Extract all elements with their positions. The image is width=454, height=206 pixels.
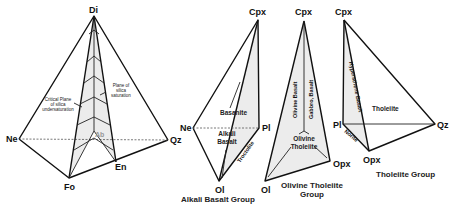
basalt-tetrahedron: Di Ne Qz Fo En Ab Critical Plane of sili… [6, 5, 182, 192]
vertex-en: En [115, 162, 127, 172]
field-alkali-basalt-2: Basalt [217, 138, 237, 145]
vertex-pl: Pl [262, 123, 271, 133]
vertex-opx: Opx [333, 159, 351, 169]
tholeiite-tetrahedron: Cpx Pl Opx Qz Hypersthene Basalt Tholeii… [333, 7, 449, 179]
critical-plane-label-3: undersaturation [42, 107, 74, 112]
basalt-classification-diagrams: Di Ne Qz Fo En Ab Critical Plane of sili… [0, 0, 454, 206]
field-olivine-tholeiite-1: Olivine [293, 135, 315, 142]
vertex-ne: Ne [6, 134, 18, 144]
ne-qz-hidden-edge [19, 139, 168, 140]
group-label: Alkali Basalt Group [181, 195, 255, 204]
vertex-qz: Qz [437, 120, 449, 130]
group-label-1: Olivine Tholeiite [281, 181, 343, 190]
vertex-pl: Pl [333, 120, 342, 130]
field-basanite: Basanite [220, 109, 247, 116]
olivine-tholeiite-tetrahedron: Cpx Ol Opx Olivine Basalt Gabbro, Basalt… [261, 7, 351, 199]
field-alkali-basalt-1: Alkali [218, 130, 236, 137]
saturation-plane-label-3: saturation [111, 93, 131, 98]
alkali-basalt-tetrahedron: Cpx Ne Pl Ol Basanite Alkali Basalt Troc… [180, 7, 271, 204]
group-label-2: Group [300, 190, 324, 199]
field-gabbro-basalt: Gabbro, Basalt [308, 80, 314, 119]
vertex-ol: Ol [261, 185, 271, 195]
field-tholeiite: Tholeiite [372, 105, 399, 112]
field-olivine-tholeiite-2: Tholeiite [291, 143, 318, 150]
vertex-qz: Qz [170, 135, 182, 145]
vertex-cpx: Cpx [295, 7, 312, 17]
vertex-opx: Opx [363, 155, 381, 165]
vertex-cpx: Cpx [249, 7, 266, 17]
vertex-ol: Ol [215, 185, 225, 195]
field-olivine-basalt: Olivine Basalt [292, 81, 298, 118]
lower-edges [19, 139, 168, 178]
vertex-cpx: Cpx [335, 7, 352, 17]
vertex-di: Di [89, 5, 98, 15]
vertex-ne: Ne [180, 123, 192, 133]
group-label: Tholeiite Group [376, 170, 435, 179]
vertex-ab: Ab [95, 131, 104, 138]
vertex-fo: Fo [64, 182, 75, 192]
